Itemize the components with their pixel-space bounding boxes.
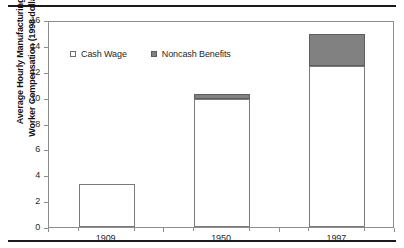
x-axis-tick-mark (193, 228, 194, 231)
bar-segment-cash-wage[interactable] (79, 184, 135, 227)
legend-entry[interactable]: Cash Wage (70, 49, 127, 59)
y-axis-tick-label: 8 (35, 119, 40, 130)
bar-segment-noncash-benefits[interactable] (194, 94, 250, 99)
hollow-square-marker (70, 51, 76, 57)
x-axis: 190919501997 (48, 228, 394, 248)
x-axis-tick-label: 1950 (191, 233, 251, 243)
bar-segment-cash-wage[interactable] (194, 99, 250, 227)
x-axis-tick-mark (364, 228, 365, 231)
bar-stack[interactable] (79, 184, 135, 227)
y-axis-tick-label: 16 (30, 15, 40, 26)
x-axis-tick-label: 1997 (306, 233, 366, 243)
x-axis-tick-mark (249, 228, 250, 231)
x-axis-tick-mark (134, 228, 135, 231)
x-axis-tick-mark (163, 228, 164, 232)
legend-label: Cash Wage (81, 49, 127, 59)
legend-label: Noncash Benefits (162, 49, 231, 59)
x-axis-tick-mark (78, 228, 79, 231)
top-rule (8, 5, 396, 7)
y-axis-tick-label: 2 (35, 196, 40, 207)
x-axis-tick-mark (308, 228, 309, 231)
legend-entry[interactable]: Noncash Benefits (151, 49, 231, 59)
y-axis-tick-label: 6 (35, 144, 40, 155)
x-axis-tick-mark (394, 228, 395, 232)
y-axis-tick-label: 0 (35, 222, 40, 233)
y-axis-tick-label: 4 (35, 170, 40, 181)
y-axis-tick-label: 14 (30, 41, 40, 52)
x-axis-tick-mark (279, 228, 280, 232)
bar-segment-cash-wage[interactable] (309, 66, 365, 227)
bar-stack[interactable] (194, 94, 250, 227)
y-axis-title-line-1: Average Hourly Manufacturing (15, 0, 27, 161)
bar-segment-noncash-benefits[interactable] (309, 34, 365, 66)
x-axis-tick-label: 1909 (76, 233, 136, 243)
y-axis-tick-label: 10 (30, 93, 40, 104)
bar-stack[interactable] (309, 34, 365, 227)
x-axis-tick-mark (48, 228, 49, 232)
y-axis-tick-label: 12 (30, 67, 40, 78)
chart-legend: Cash WageNoncash Benefits (70, 49, 231, 59)
chart-figure: Average Hourly Manufacturing Worker Comp… (0, 0, 404, 248)
y-axis: Average Hourly Manufacturing Worker Comp… (0, 0, 48, 248)
filled-square-marker (151, 51, 157, 57)
